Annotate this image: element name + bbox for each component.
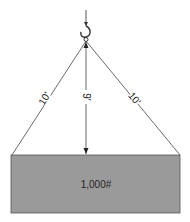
left-sling-length-label: 10' xyxy=(36,90,52,107)
hook-shackle-icon xyxy=(84,38,88,42)
dimension-arrow-down-icon xyxy=(84,148,89,154)
load-weight-label: 1,000# xyxy=(81,179,112,190)
hook-icon xyxy=(81,26,90,37)
rigging-diagram: 9' 10' 10' 1,000# xyxy=(0,0,190,222)
crane-line-arrow-icon xyxy=(84,22,88,26)
height-label: 9' xyxy=(81,93,92,101)
